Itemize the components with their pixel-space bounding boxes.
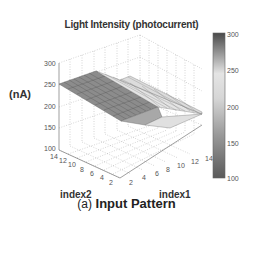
z-tick-labels: 300 250 200 150 100 bbox=[44, 60, 56, 152]
svg-text:14: 14 bbox=[50, 153, 58, 160]
svg-text:6: 6 bbox=[155, 170, 159, 177]
svg-text:12: 12 bbox=[59, 157, 67, 164]
svg-text:10: 10 bbox=[177, 162, 185, 169]
svg-text:200: 200 bbox=[227, 104, 239, 111]
svg-text:4: 4 bbox=[100, 174, 104, 181]
svg-text:14: 14 bbox=[205, 155, 213, 162]
svg-text:150: 150 bbox=[227, 140, 239, 147]
svg-text:250: 250 bbox=[44, 81, 56, 88]
svg-text:100: 100 bbox=[44, 145, 56, 152]
caption-prefix: (a) bbox=[77, 197, 92, 211]
svg-text:200: 200 bbox=[44, 103, 56, 110]
svg-text:100: 100 bbox=[227, 175, 239, 182]
colorbar: 300 250 200 150 100 bbox=[213, 31, 239, 182]
figure-caption: (a) Input Pattern bbox=[0, 196, 253, 211]
index1-tick-labels: 2 4 6 8 10 12 14 bbox=[129, 155, 213, 186]
svg-text:150: 150 bbox=[44, 124, 56, 131]
x-axis bbox=[120, 125, 202, 178]
svg-text:2: 2 bbox=[109, 179, 113, 186]
svg-text:4: 4 bbox=[142, 174, 146, 181]
svg-text:8: 8 bbox=[166, 166, 170, 173]
svg-text:12: 12 bbox=[191, 158, 199, 165]
svg-text:10: 10 bbox=[68, 161, 76, 168]
svg-text:8: 8 bbox=[80, 166, 84, 173]
svg-text:2: 2 bbox=[129, 179, 133, 186]
index2-tick-labels: 14 12 10 8 6 4 2 bbox=[50, 153, 113, 186]
svg-text:300: 300 bbox=[227, 31, 239, 38]
svg-text:6: 6 bbox=[90, 170, 94, 177]
svg-text:300: 300 bbox=[44, 60, 56, 67]
surface-plot: 300 250 200 150 100 14 12 10 8 6 4 2 2 4… bbox=[0, 0, 253, 253]
caption-text: Input Pattern bbox=[92, 196, 176, 211]
svg-text:250: 250 bbox=[227, 67, 239, 74]
